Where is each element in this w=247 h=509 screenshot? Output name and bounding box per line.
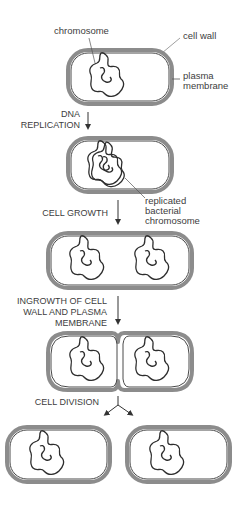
step-dna-replication-line2: REPLICATION (10, 120, 80, 130)
step-ingrowth-line2: WALL AND PLASMA (5, 307, 107, 317)
step-ingrowth-line1: INGROWTH OF CELL (5, 296, 107, 306)
cell-wall-leader (162, 38, 180, 53)
daughter-cell-right (127, 427, 230, 482)
label-replicated-line3: chromosome (145, 216, 200, 226)
step-ingrowth-line3: MEMBRANE (5, 318, 107, 328)
label-cell-wall: cell wall (183, 31, 216, 41)
cell-1 (68, 50, 172, 104)
step-dna-replication-line1: DNA (30, 109, 80, 119)
label-chromosome: chromosome (54, 26, 109, 36)
arrow-cell-division (106, 396, 131, 414)
daughter-cell-left (7, 427, 110, 482)
cell-4-dividing (48, 333, 192, 390)
cell-2 (68, 138, 172, 192)
step-cell-growth: CELL GROWTH (20, 208, 108, 218)
cell-3 (48, 233, 192, 288)
step-cell-division: CELL DIVISION (10, 397, 99, 407)
label-plasma-membrane-line2: membrane (183, 81, 228, 91)
